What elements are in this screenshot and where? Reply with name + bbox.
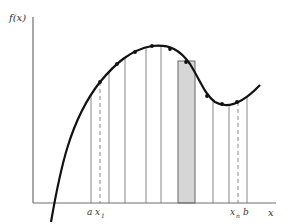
shaded-sample-rectangle [178, 61, 195, 203]
sample-point-dot [205, 94, 209, 98]
sample-point-dot [115, 62, 119, 66]
y-axis-label: f(x) [8, 12, 26, 23]
sample-point-dot [235, 100, 239, 104]
dashed-sample-lines [100, 82, 238, 203]
tick-label-a: a [87, 207, 92, 217]
partition-lines [91, 46, 247, 203]
sample-point-dot [98, 80, 102, 84]
tick-label-x1-subscript: 1 [101, 212, 105, 219]
sample-points [98, 44, 239, 106]
tick-label-x1: x [95, 207, 100, 217]
tick-label-xn: x [230, 207, 235, 217]
tick-label-b: b [243, 207, 249, 217]
sample-point-dot [150, 44, 154, 48]
riemann-sum-diagram: f(x) x a x 1 x n b [0, 0, 292, 224]
sample-point-dot [168, 47, 172, 51]
sample-point-dot [133, 50, 137, 54]
sample-point-dot [220, 102, 224, 106]
tick-label-xn-subscript: n [236, 212, 240, 219]
x-axis-label: x [268, 207, 274, 218]
sample-point-dot [184, 60, 188, 64]
